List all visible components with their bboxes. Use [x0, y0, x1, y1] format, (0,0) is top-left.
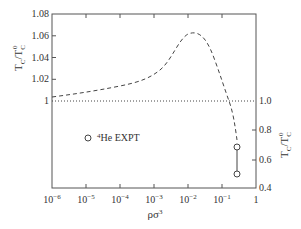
legend-label: 4He EXPT	[97, 132, 140, 143]
expt-point-low	[234, 171, 240, 177]
svg-text:1: 1	[44, 95, 49, 106]
svg-text:1.06: 1.06	[32, 30, 50, 41]
svg-text:10−6: 10−6	[43, 193, 61, 205]
theory-curve	[52, 33, 237, 140]
svg-text:0.6: 0.6	[259, 154, 272, 165]
x-labels: 10−6 10−5 10−4 10−3 10−2 10−1 1	[43, 193, 258, 205]
y-left-axis-title: TC/TC0	[11, 45, 27, 71]
svg-text:10−1: 10−1	[213, 193, 231, 205]
chart: 4He EXPT 1.08 1.06 1.04 1.02 1 1.0 0.8 0…	[0, 0, 301, 229]
svg-text:1.08: 1.08	[32, 8, 50, 19]
legend-marker-icon	[85, 135, 91, 141]
svg-text:1: 1	[254, 194, 259, 205]
svg-text:10−4: 10−4	[111, 193, 129, 205]
svg-text:0.8: 0.8	[259, 124, 272, 135]
y-right-axis-title: TC/TC0	[277, 132, 293, 158]
svg-text:1.0: 1.0	[259, 95, 272, 106]
svg-text:1.04: 1.04	[32, 52, 50, 63]
y-right-labels: 1.0 0.8 0.6 0.4	[259, 95, 272, 193]
y-right-ticks	[252, 130, 256, 160]
y-left-ticks	[52, 36, 56, 80]
svg-text:10−2: 10−2	[179, 193, 197, 205]
svg-text:1.02: 1.02	[32, 73, 50, 84]
svg-text:0.4: 0.4	[259, 182, 272, 193]
expt-point-high	[234, 144, 240, 150]
svg-text:10−5: 10−5	[77, 193, 95, 205]
x-axis-title: ρσ3	[148, 208, 163, 220]
svg-text:10−3: 10−3	[145, 193, 163, 205]
y-left-labels: 1.08 1.06 1.04 1.02 1	[32, 8, 50, 106]
